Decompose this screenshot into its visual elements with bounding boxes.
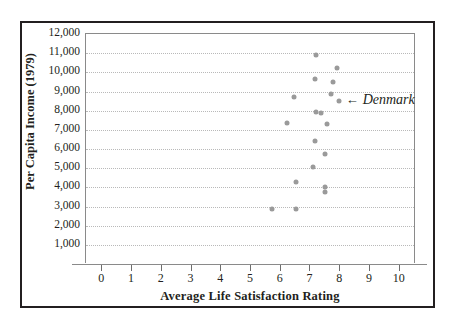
data-point (323, 185, 328, 190)
figure: 1,0002,0003,0004,0005,0006,0007,0008,000… (0, 0, 451, 330)
x-tick-label: 6 (277, 271, 283, 286)
data-point (324, 122, 329, 127)
data-point (323, 151, 328, 156)
y-tick-label: 6,000 (54, 142, 80, 154)
y-tick-label: 1,000 (54, 238, 80, 250)
gridline (86, 72, 414, 73)
gridline (86, 187, 414, 188)
y-tick-label: 7,000 (54, 123, 80, 135)
gridline (86, 111, 414, 112)
x-tick-label: 7 (306, 271, 312, 286)
y-tick-label: 12,000 (48, 27, 80, 39)
y-tick-label: 8,000 (54, 104, 80, 116)
x-tick-label: 3 (188, 271, 194, 286)
x-tick-label: 2 (158, 271, 164, 286)
y-tick-label: 3,000 (54, 200, 80, 212)
data-point (312, 139, 317, 144)
x-axis-tick-labels: 012345678910 (85, 271, 415, 289)
y-tick-label: 10,000 (48, 66, 80, 78)
annotation-label-denmark: Denmark (363, 92, 415, 108)
x-tick-label: 9 (366, 271, 372, 286)
gridline (86, 226, 414, 227)
x-tick-label: 1 (128, 271, 134, 286)
y-tick-label: 4,000 (54, 181, 80, 193)
x-axis-title: Average Life Satisfaction Rating (85, 289, 415, 304)
x-tick-label: 4 (217, 271, 223, 286)
gridline (86, 245, 414, 246)
plot-area: ←Denmark (85, 33, 415, 263)
y-tick-label: 2,000 (54, 219, 80, 231)
data-point (284, 121, 289, 126)
x-tick-label: 8 (336, 271, 342, 286)
gridline (86, 53, 414, 54)
x-tick-label: 10 (393, 271, 405, 286)
y-axis-tick-labels: 1,0002,0003,0004,0005,0006,0007,0008,000… (0, 33, 80, 263)
gridline (86, 149, 414, 150)
annotation-arrow-icon: ← (346, 92, 359, 108)
x-tick-label: 0 (98, 271, 104, 286)
data-point (311, 165, 316, 170)
data-point (323, 190, 328, 195)
x-tick-label: 5 (247, 271, 253, 286)
data-point (329, 92, 334, 97)
gridline (86, 130, 414, 131)
gridline (86, 207, 414, 208)
data-point (318, 110, 323, 115)
data-point (293, 179, 298, 184)
data-point (269, 207, 274, 212)
data-point (312, 77, 317, 82)
y-tick-label: 11,000 (49, 46, 80, 58)
y-axis-title: Per Capita Income (1979) (23, 22, 38, 222)
data-point (314, 53, 319, 58)
gridline (86, 168, 414, 169)
data-point (292, 95, 297, 100)
y-tick-label: 5,000 (54, 161, 80, 173)
data-point (336, 99, 341, 104)
data-point (293, 207, 298, 212)
y-tick-label: 9,000 (54, 85, 80, 97)
data-point (330, 79, 335, 84)
data-point (335, 65, 340, 70)
